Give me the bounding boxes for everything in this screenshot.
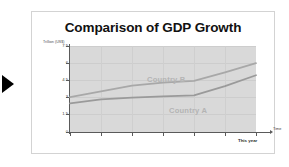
x-tick-mark (194, 132, 195, 136)
page-title: Comparison of GDP Growth (32, 20, 274, 35)
slide-viewer: Comparison of GDP Growth Trillion (US$) … (0, 0, 289, 167)
x-tick-mark (256, 132, 257, 136)
x-tick-mark (225, 132, 226, 136)
play-arrow-icon[interactable] (0, 73, 16, 95)
x-axis-title: Time (273, 127, 281, 131)
series-lines (70, 46, 256, 132)
gdp-growth-line-chart: Trillion (US$) 7.5 6 (41, 40, 267, 148)
series-label-country-a: Country A (169, 106, 207, 115)
x-axis-end-label: This year (238, 138, 257, 143)
x-tick-mark (70, 132, 71, 136)
x-tick-mark (101, 132, 102, 136)
x-tick-mark (132, 132, 133, 136)
slide-card: Comparison of GDP Growth Trillion (US$) … (31, 11, 275, 154)
x-axis-line (69, 132, 271, 133)
series-label-country-b: Country B (147, 75, 186, 84)
x-tick-mark (163, 132, 164, 136)
